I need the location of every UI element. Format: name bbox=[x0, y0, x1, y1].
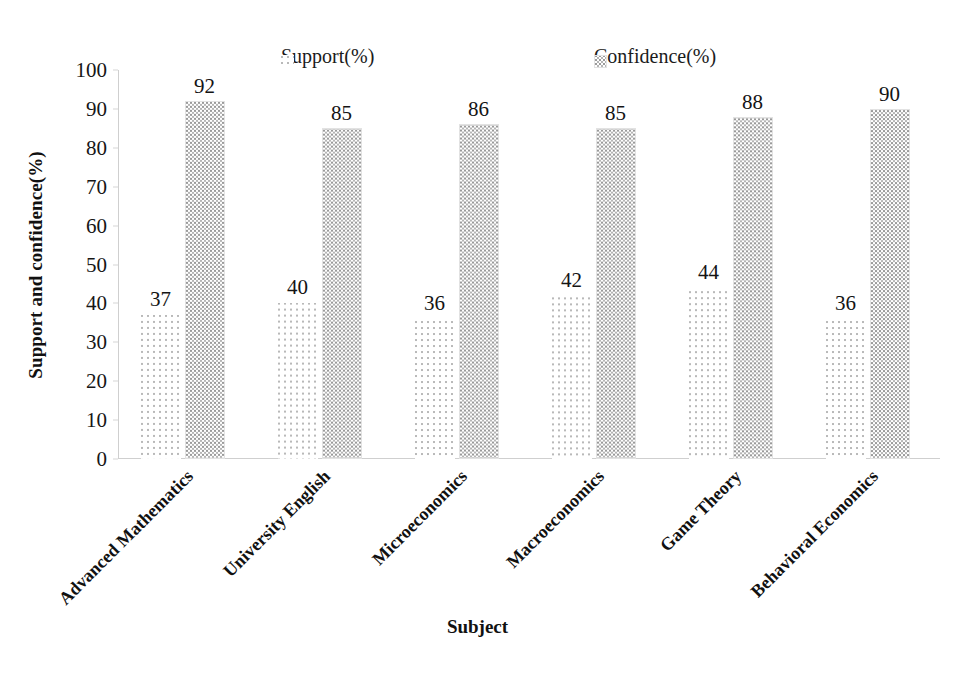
bar-value-label: 36 bbox=[424, 293, 445, 314]
bar-confidence: 88 bbox=[733, 117, 773, 459]
y-axis-tick-label: 80 bbox=[86, 137, 107, 158]
y-axis-tick-label: 20 bbox=[86, 371, 107, 392]
y-axis-tick-mark bbox=[113, 108, 118, 109]
y-axis-tick-label: 10 bbox=[86, 410, 107, 431]
y-axis-tick-label: 60 bbox=[86, 215, 107, 236]
y-axis-tick-label: 40 bbox=[86, 293, 107, 314]
bar-support: 36 bbox=[415, 319, 455, 459]
y-axis-tick-mark bbox=[113, 264, 118, 265]
x-axis-category-label: Advanced Mathematics bbox=[0, 466, 197, 687]
y-axis-tick-label: 100 bbox=[76, 60, 108, 81]
y-axis-tick-mark bbox=[113, 459, 118, 460]
x-axis-line bbox=[118, 458, 940, 459]
y-axis-tick-mark bbox=[113, 147, 118, 148]
bar-confidence: 85 bbox=[322, 128, 362, 459]
y-axis-tick-mark bbox=[113, 186, 118, 187]
y-axis-line bbox=[118, 70, 119, 459]
y-axis-tick-label: 30 bbox=[86, 332, 107, 353]
bar-confidence: 85 bbox=[596, 128, 636, 459]
bar-support: 36 bbox=[826, 319, 866, 459]
y-axis-tick-mark bbox=[113, 70, 118, 71]
bar-value-label: 85 bbox=[331, 103, 352, 124]
bar-value-label: 90 bbox=[879, 84, 900, 105]
legend-entry-confidence: Confidence(%) bbox=[594, 44, 716, 68]
y-axis-tick-label: 70 bbox=[86, 176, 107, 197]
y-axis-tick-label: 90 bbox=[86, 98, 107, 119]
legend-entry-support: Support(%) bbox=[281, 44, 374, 68]
bar-support: 40 bbox=[278, 303, 318, 459]
y-axis-tick-mark bbox=[113, 225, 118, 226]
y-axis-tick-label: 50 bbox=[86, 254, 107, 275]
y-axis-title: Support and confidence(%) bbox=[23, 70, 49, 459]
bar-value-label: 92 bbox=[194, 76, 215, 97]
bar-confidence: 90 bbox=[870, 109, 910, 459]
x-axis-title: Subject bbox=[0, 616, 955, 638]
plot-area: 1009080706050403020100 37924085368642854… bbox=[118, 70, 940, 459]
bar-confidence: 86 bbox=[459, 124, 499, 459]
bar-support: 42 bbox=[552, 296, 592, 459]
bar-value-label: 37 bbox=[150, 289, 171, 310]
bar-confidence: 92 bbox=[185, 101, 225, 459]
bar-value-label: 44 bbox=[698, 262, 719, 283]
bar-value-label: 36 bbox=[835, 293, 856, 314]
bar-value-label: 42 bbox=[561, 270, 582, 291]
bar-support: 37 bbox=[141, 315, 181, 459]
bar-value-label: 85 bbox=[605, 103, 626, 124]
bar-value-label: 86 bbox=[468, 99, 489, 120]
legend-swatch-support-icon bbox=[281, 55, 294, 68]
legend-swatch-confidence-icon bbox=[594, 55, 607, 68]
bar-chart: Support(%) Confidence(%) Support and con… bbox=[0, 0, 955, 687]
y-axis-tick-mark bbox=[113, 381, 118, 382]
bar-support: 44 bbox=[689, 288, 729, 459]
y-axis-tick-mark bbox=[113, 420, 118, 421]
bar-value-label: 40 bbox=[287, 277, 308, 298]
legend-label-confidence: Confidence(%) bbox=[594, 44, 716, 68]
y-axis-tick-label: 0 bbox=[97, 449, 108, 470]
legend-label-support: Support(%) bbox=[281, 44, 374, 68]
y-axis-tick-mark bbox=[113, 303, 118, 304]
y-axis-title-text: Support and confidence(%) bbox=[25, 151, 47, 378]
bar-value-label: 88 bbox=[742, 92, 763, 113]
y-axis-tick-mark bbox=[113, 342, 118, 343]
